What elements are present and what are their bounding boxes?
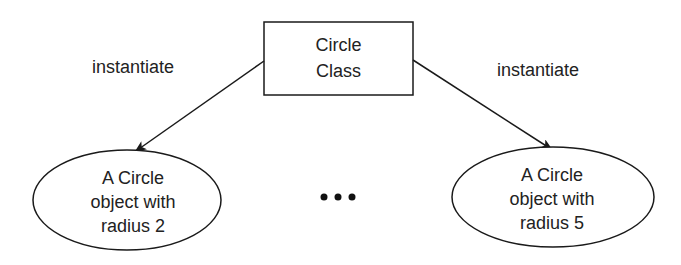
object-right-line-3: radius 5 bbox=[520, 213, 584, 233]
diagram-canvas: Circle Class instantiate instantiate A C… bbox=[0, 0, 681, 265]
class-box-line-1: Circle bbox=[315, 35, 361, 55]
edge-label-left: instantiate bbox=[92, 57, 174, 77]
object-ellipse-radius-5: A Circle object with radius 5 bbox=[452, 147, 654, 247]
object-left-line-2: object with bbox=[90, 192, 175, 212]
object-right-line-1: A Circle bbox=[521, 165, 583, 185]
class-box-line-2: Class bbox=[316, 61, 361, 81]
object-left-line-1: A Circle bbox=[102, 168, 164, 188]
object-right-line-2: object with bbox=[509, 189, 594, 209]
ellipsis-dots bbox=[321, 194, 356, 201]
edge-label-right: instantiate bbox=[497, 60, 579, 80]
circle-class-box: Circle Class bbox=[264, 22, 413, 95]
object-ellipse-radius-2: A Circle object with radius 2 bbox=[33, 150, 221, 250]
object-left-line-3: radius 2 bbox=[101, 216, 165, 236]
